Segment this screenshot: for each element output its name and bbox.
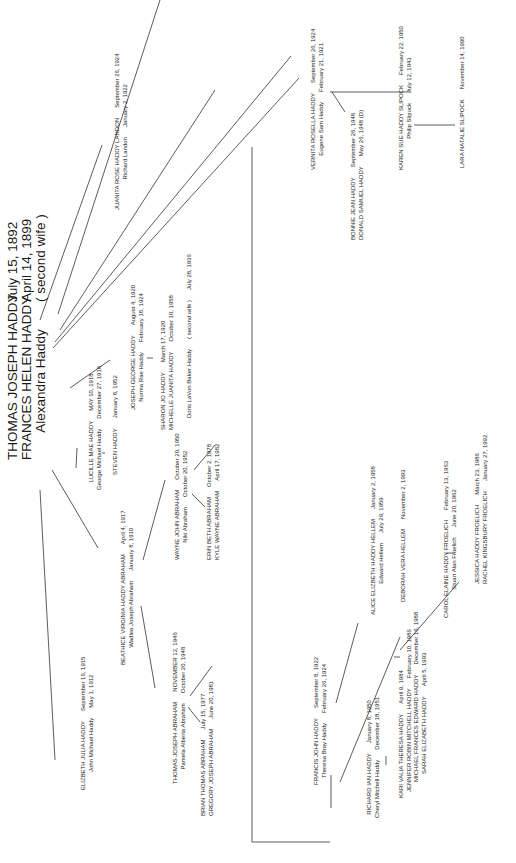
spouse-date: February 21, 1921	[318, 43, 324, 92]
spouse-name: Cheryl Mitchell Haddy	[374, 760, 380, 818]
person-date: September 26, 1948	[350, 113, 356, 167]
root-husband-date: July 15, 1892	[5, 222, 20, 302]
person-name: GREGORY JOSEPH ABRAHAM	[208, 729, 214, 816]
root-second-wife: Alexandra Haddy	[34, 302, 48, 460]
person-name: MICHELLE JUANITA HADDY	[168, 351, 174, 430]
person-date: July 28, 1936	[186, 254, 192, 290]
person-date: January 8, 1950	[366, 700, 372, 743]
person-date: March 17, 1920	[160, 321, 166, 363]
person-date: January 2, 1958	[370, 466, 376, 509]
person-name: SHARON JO HADDY	[160, 372, 166, 430]
person-date: June 20, 1981	[208, 681, 214, 719]
person-name: JENNIFER ROBIN MITCHELL HADDY	[406, 688, 412, 792]
person-name: BEATHICE VIRGINIA HADDY ABRAHAM	[120, 554, 126, 665]
person-date: November 14, 1990	[459, 36, 465, 89]
person-name: Doris LaVon Baker Haddy	[186, 349, 192, 418]
second-wife-note: ( second wife )	[186, 300, 192, 339]
spouse-name: George Michael Haddy	[96, 429, 102, 490]
person-date: October 20, 1950	[174, 433, 180, 479]
person-alice: ALICE ELIZBETH HADDY HELLEMJanuary 2, 19…	[370, 466, 385, 615]
person-name: RICHARD IAN HADDY	[366, 753, 372, 815]
person-date: MAY 10, 1918	[88, 373, 94, 410]
person-date: NOVEMBER 12, 1946	[172, 632, 178, 691]
spouse-date: July 29, 1959	[378, 497, 384, 533]
person-francis: FRANCIS JOHN HADDYSeptember 8, 1922 Ther…	[313, 657, 328, 785]
spouse-name: Theresa Bray Haddy	[321, 723, 327, 778]
spouse-date: October 20, 1948	[180, 647, 186, 693]
person-lara: LARA NATALIE SLIPOCKNovember 14, 1990	[459, 36, 467, 168]
person-name: JOSEPH GEORGE HADDY	[130, 335, 136, 410]
root-second-wife-note: ( second wife )	[33, 214, 48, 302]
person-date: January 27, 1992	[482, 435, 488, 481]
spouse-date: February 18, 1924	[138, 293, 144, 342]
spouse-name: Richard Landon	[122, 137, 128, 179]
richard-children: KARI VALIA THERESA HADDYApril 9, 1984 JE…	[398, 612, 428, 798]
person-name: JUANITA ROSE HADDY LANDON	[114, 118, 120, 210]
person-steven: STEVEN HADDYJanuary 8, 1952	[112, 375, 120, 475]
person-name: MICHAEL FRANCES EDWARD HADDY	[413, 674, 419, 782]
person-carol: CAROL ELAINE HADDY FROELICHFebruary 13, …	[443, 461, 458, 618]
spouse-name: Edward Hellem	[378, 543, 384, 584]
person-thomas-abraham: THOMAS JOSEPH ABRAHAMNOVEMBER 12, 1946 P…	[172, 632, 187, 784]
person-date: April 9, 1984	[398, 670, 404, 704]
spouse-date: December 27, 1918	[96, 366, 102, 419]
person-joseph: JOSEPH GEORGE HADDYAugust 4, 1920 Norma …	[130, 285, 145, 410]
person-richard: RICHARD IAN HADDYJanuary 8, 1950 Cheryl …	[366, 697, 381, 818]
person-date: October 2, 1978	[206, 444, 212, 487]
person-juanita: JUANITA ROSE HADDY LANDONSeptember 26, 1…	[114, 53, 129, 210]
spouse-name: Stuart Alan Froelich	[451, 537, 457, 589]
person-date: March 23, 1986	[474, 453, 480, 495]
person-name: RACHEL KINGSBURY FROELICH	[482, 491, 488, 584]
spouse-date: July 12, 1943	[406, 57, 412, 93]
person-name: FRANCIS JOHN HADDY	[313, 718, 319, 785]
spouse-name: Philip Slipock	[406, 103, 412, 139]
person-name: STEVEN HADDY	[112, 428, 118, 475]
person-date: September 26, 1924	[114, 53, 120, 107]
root-husband-name: THOMAS JOSEPH HADDY	[6, 302, 20, 460]
spouse-name: Norma Rae Haddy	[138, 352, 144, 402]
spouse-date: May 1, 1912	[88, 675, 94, 708]
person-name: ELIZBETH JULIA HADDY	[80, 721, 86, 790]
person-name: LUCILLE MAE HADDY	[88, 421, 94, 483]
spouse-name: Wadlea Joseph Abraham	[128, 581, 134, 648]
root-couple: THOMAS JOSEPH HADDYJuly 15, 1892 FRANCES…	[6, 214, 49, 460]
person-name: SARAH ELIZABETH HADDY	[421, 696, 427, 774]
spouse-date: January 8, 1910	[128, 528, 134, 571]
person-jessica-rachel: JESSICA HADDY FROELICHMarch 23, 1986 RAC…	[474, 435, 489, 584]
person-name: WAYNE JOHN ABRAHAM	[174, 490, 180, 560]
person-date: December 16, 1988	[413, 612, 419, 665]
person-date: April 5, 1993	[421, 653, 427, 687]
spouse-name: Niki Abraham	[182, 507, 188, 543]
person-date: April 17, 1982	[214, 444, 220, 481]
person-sharon-michelle: SHARON JO HADDYMarch 17, 1920 MICHELLE J…	[160, 295, 175, 430]
spouse-date: June 20, 1962	[451, 489, 457, 527]
person-elizbeth: ELIZBETH JULIA HADDYSeptember 16, 1915 J…	[80, 657, 95, 790]
person-brian-gregory: BRIAN THOMAS ABRAHAMJuly 15, 1977 GREGOR…	[200, 681, 215, 816]
person-vernita: VERNITA ROSELLA HADDYSeptember 26, 1924 …	[310, 29, 325, 170]
person-name: CAROL ELAINE HADDY FROELICH	[443, 520, 449, 618]
person-date: May 26, 1948 (D)	[358, 110, 364, 156]
spouse-date: January 2, 1922	[122, 84, 128, 127]
person-bonnie-donald: BONNIE JEAN HADDYSeptember 26, 1948 DONA…	[350, 110, 365, 240]
person-name: VERNITA ROSELLA HADDY	[310, 93, 316, 170]
person-name: ERIN BETH ABRAHAM	[206, 497, 212, 560]
person-name: KAREN SUE HADDY SLIPOCK	[398, 85, 404, 170]
person-beathice: BEATHICE VIRGINIA HADDY ABRAHAMApril 4, …	[120, 510, 135, 665]
person-date: January 8, 1952	[112, 375, 118, 418]
spouse-name: John Michael Haddy	[88, 718, 94, 772]
person-erin-kyle: ERIN BETH ABRAHAMOctober 2, 1978 KYLE WA…	[206, 444, 221, 560]
spouse-date: December 18, 1951	[374, 697, 380, 750]
person-name: JESSICA HADDY FROELICH	[474, 505, 480, 584]
connector-lines	[0, 0, 516, 863]
person-date: February 10, 1986	[406, 629, 412, 678]
person-date: April 4, 1917	[120, 510, 126, 544]
person-date: February 13, 1963	[443, 461, 449, 510]
spouse-name: Eugene Sam Haddy	[318, 102, 324, 156]
person-date: August 4, 1920	[130, 285, 136, 325]
root-wife-name: FRANCES HELEN HADDY	[20, 302, 34, 460]
person-date: July 15, 1977	[200, 694, 206, 730]
person-name: BRIAN THOMAS ABRAHAM	[200, 739, 206, 816]
person-date: September 16, 1915	[80, 657, 86, 711]
person-date: October 10, 1958	[168, 295, 174, 341]
person-name: DEBORAH VERA HELLEM	[400, 529, 406, 602]
